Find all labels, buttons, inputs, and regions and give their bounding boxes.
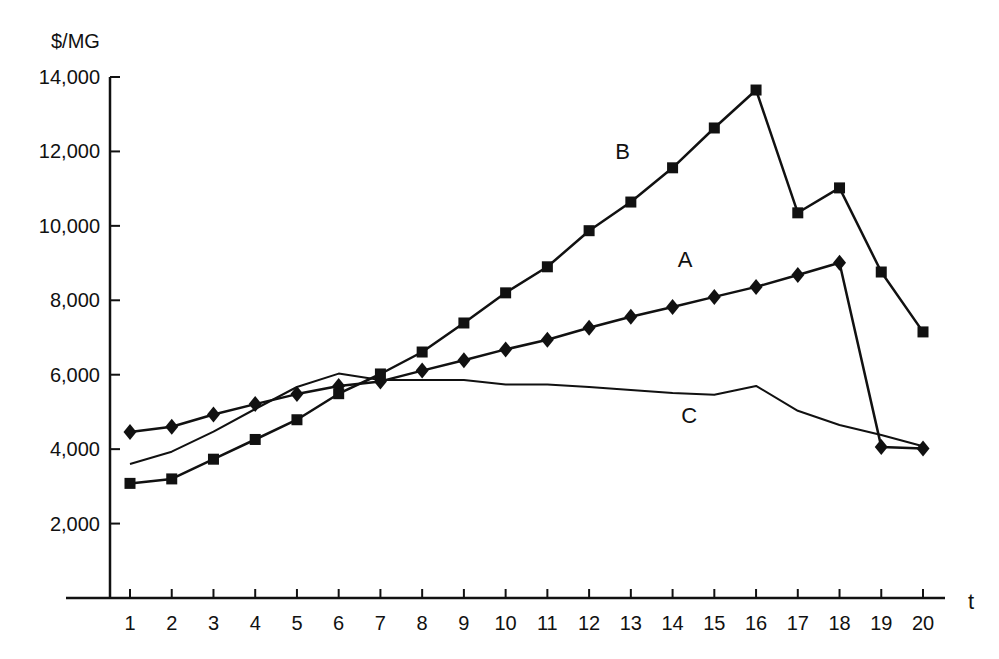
x-axis-title: t [968, 589, 974, 614]
x-tick-label: 2 [166, 612, 177, 634]
x-tick-label: 18 [828, 612, 850, 634]
x-tick-label: 5 [291, 612, 302, 634]
diamond-marker [833, 255, 846, 271]
series-b [125, 85, 929, 489]
x-tick-label: 17 [787, 612, 809, 634]
diamond-marker [666, 299, 679, 315]
square-marker [417, 347, 428, 358]
square-marker [458, 317, 469, 328]
square-marker [709, 122, 720, 133]
series-c [130, 374, 923, 464]
y-tick-label: 2,000 [50, 513, 100, 535]
diamond-marker [791, 267, 804, 283]
series-label-b: B [615, 139, 630, 164]
x-tick-label: 15 [703, 612, 725, 634]
diamond-marker [124, 424, 137, 440]
line-chart: 2,0004,0006,0008,00010,00012,00014,000 1… [0, 0, 999, 659]
y-tick-label: 10,000 [39, 215, 100, 237]
diamond-marker [875, 439, 888, 455]
x-tick-label: 8 [417, 612, 428, 634]
square-marker [918, 326, 929, 337]
x-tick-label: 13 [620, 612, 642, 634]
square-marker [208, 454, 219, 465]
axes: 2,0004,0006,0008,00010,00012,00014,000 1… [39, 30, 974, 634]
series-a [124, 255, 930, 457]
x-tick-label: 3 [208, 612, 219, 634]
diamond-marker [457, 352, 470, 368]
diamond-marker [750, 279, 763, 295]
square-marker [792, 207, 803, 218]
square-marker [250, 434, 261, 445]
diamond-marker [624, 309, 637, 325]
x-tick-label: 9 [458, 612, 469, 634]
x-tick-label: 1 [124, 612, 135, 634]
x-tick-label: 7 [375, 612, 386, 634]
series-label-a: A [678, 247, 693, 272]
square-marker [166, 473, 177, 484]
x-tick-label: 19 [870, 612, 892, 634]
square-marker [333, 388, 344, 399]
x-tick-label: 6 [333, 612, 344, 634]
diamond-marker [207, 407, 220, 423]
diamond-marker [583, 320, 596, 336]
y-tick-label: 8,000 [50, 289, 100, 311]
square-marker [542, 261, 553, 272]
square-marker [834, 182, 845, 193]
y-tick-label: 14,000 [39, 66, 100, 88]
square-marker [375, 368, 386, 379]
x-tick-label: 4 [250, 612, 261, 634]
square-marker [584, 225, 595, 236]
x-tick-label: 12 [578, 612, 600, 634]
series-label-c: C [681, 403, 697, 428]
y-ticks: 2,0004,0006,0008,00010,00012,00014,000 [39, 66, 120, 535]
square-marker [125, 478, 136, 489]
x-tick-label: 14 [661, 612, 683, 634]
diamond-marker [541, 332, 554, 348]
x-tick-label: 20 [912, 612, 934, 634]
diamond-marker [165, 419, 178, 435]
diamond-marker [917, 440, 930, 456]
square-marker [667, 162, 678, 173]
square-marker [291, 414, 302, 425]
x-tick-label: 10 [495, 612, 517, 634]
square-marker [500, 287, 511, 298]
series-line [130, 374, 923, 464]
diamond-marker [499, 341, 512, 357]
y-tick-label: 4,000 [50, 438, 100, 460]
square-marker [876, 267, 887, 278]
series-group [124, 85, 930, 489]
diamond-marker [708, 289, 721, 305]
y-tick-label: 12,000 [39, 140, 100, 162]
y-tick-label: 6,000 [50, 364, 100, 386]
x-tick-label: 11 [537, 612, 558, 634]
diamond-marker [416, 363, 429, 379]
square-marker [751, 85, 762, 96]
x-ticks: 1234567891011121314151617181920 [124, 589, 934, 634]
y-axis-title: $/MG [51, 30, 100, 52]
x-tick-label: 16 [745, 612, 767, 634]
series-line [130, 263, 923, 449]
series-line [130, 90, 923, 483]
square-marker [625, 197, 636, 208]
